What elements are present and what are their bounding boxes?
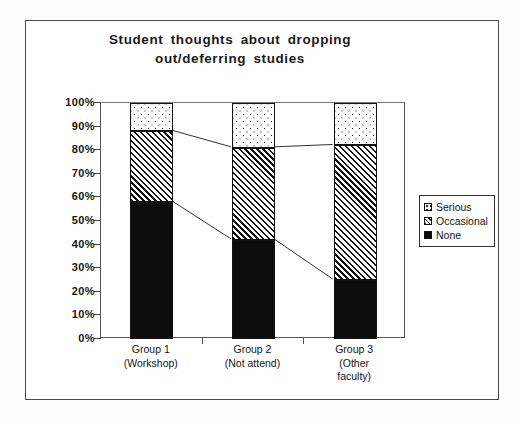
legend-label-none: None [436, 229, 461, 241]
bar-segment-occasional[interactable] [232, 148, 275, 240]
x-axis-labels: Group 1(Workshop)Group 2(Not attend)Grou… [100, 343, 405, 398]
y-axis-tick-label: 90% [40, 120, 95, 132]
x-axis-category-label-line: (Not attend) [200, 357, 305, 371]
y-axis-tick-label: 20% [40, 285, 95, 297]
chart-title: Student thoughts about dropping out/defe… [60, 30, 400, 68]
chart-legend: Serious Occasional None [419, 195, 495, 247]
dotted-swatch-icon [424, 203, 432, 211]
bar-segment-serious[interactable] [130, 103, 173, 131]
bar-segment-serious[interactable] [334, 103, 377, 145]
y-axis-tick-label: 0% [40, 332, 95, 344]
x-axis-category-label: Group 2(Not attend) [200, 343, 305, 370]
x-axis-category-label-line: Group 1 [98, 343, 203, 357]
bar-segment-occasional[interactable] [334, 145, 377, 280]
x-axis-category-label-line: Group 3 [302, 343, 407, 357]
hatch-swatch-icon [424, 217, 432, 225]
stacked-bar[interactable] [232, 103, 275, 337]
legend-item-serious[interactable]: Serious [424, 200, 488, 214]
legend-item-none[interactable]: None [424, 228, 488, 242]
y-axis-tick-label: 80% [40, 143, 95, 155]
y-axis-tick-label: 50% [40, 214, 95, 226]
x-axis-category-label: Group 3(Otherfaculty) [302, 343, 407, 384]
x-axis-category-label-line: faculty) [302, 370, 407, 384]
bar-segment-none[interactable] [232, 240, 275, 339]
bar-segment-none[interactable] [334, 280, 377, 339]
bar-segment-occasional[interactable] [130, 131, 173, 202]
chart-figure: Student thoughts about dropping out/defe… [0, 0, 521, 424]
x-axis-category-label: Group 1(Workshop) [98, 343, 203, 370]
legend-item-occasional[interactable]: Occasional [424, 214, 488, 228]
y-axis-tick-label: 70% [40, 167, 95, 179]
solid-swatch-icon [424, 231, 432, 239]
x-axis-category-label-line: (Other [302, 357, 407, 371]
stacked-bar[interactable] [130, 103, 173, 337]
y-axis-tick-label: 60% [40, 190, 95, 202]
y-axis-tick-label: 40% [40, 238, 95, 250]
plot-area [100, 102, 405, 338]
y-axis-tick-label: 100% [40, 96, 95, 108]
chart-title-line-1: Student thoughts about dropping [60, 30, 400, 49]
legend-label-occasional: Occasional [436, 215, 488, 227]
y-axis-tick-label: 10% [40, 308, 95, 320]
x-axis-category-label-line: Group 2 [200, 343, 305, 357]
bar-segment-serious[interactable] [232, 103, 275, 148]
y-axis-tick-label: 30% [40, 261, 95, 273]
chart-title-line-2: out/deferring studies [60, 49, 400, 68]
x-axis-category-label-line: (Workshop) [98, 357, 203, 371]
stacked-bar[interactable] [334, 103, 377, 337]
y-axis-labels: 100%90%80%70%60%50%40%30%20%10%0% [40, 102, 95, 338]
bar-segment-none[interactable] [130, 202, 173, 339]
legend-label-serious: Serious [436, 201, 472, 213]
